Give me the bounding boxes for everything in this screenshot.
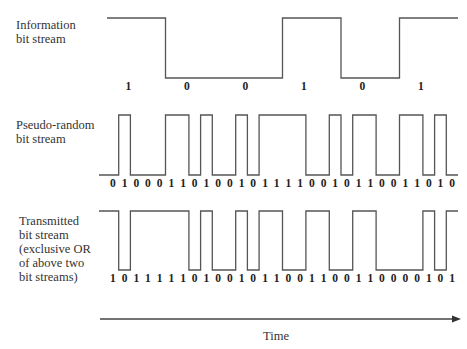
bit-label: 1 (356, 272, 362, 284)
bit-label: 1 (321, 272, 327, 284)
bit-label: 1 (145, 272, 151, 284)
bit-label: 0 (414, 272, 420, 284)
waveform-line (107, 18, 458, 78)
arrowhead-icon (452, 316, 461, 323)
bit-label: 0 (403, 272, 409, 284)
bit-label: 0 (379, 272, 385, 284)
bit-label: 0 (242, 80, 248, 92)
waveform-line (99, 115, 458, 175)
bit-label: 1 (239, 272, 245, 284)
bit-label: 1 (168, 177, 174, 189)
bit-label: 1 (204, 177, 210, 189)
bit-label: 1 (125, 80, 131, 92)
time-axis-arrow (100, 316, 461, 323)
bit-label: 0 (145, 177, 151, 189)
bit-label: 1 (414, 177, 420, 189)
bit-label: 1 (204, 272, 210, 284)
bit-label: 0 (449, 177, 455, 189)
bit-label: 0 (157, 177, 163, 189)
bit-label: 0 (344, 272, 350, 284)
bit-label: 1 (262, 177, 268, 189)
bit-label: 1 (301, 80, 307, 92)
bit-label: 0 (321, 177, 327, 189)
bit-label: 1 (274, 272, 280, 284)
bit-label: 1 (180, 177, 186, 189)
bit-label: 0 (297, 272, 303, 284)
transmitted-waveform: 101111101001011001100110000101 (99, 211, 458, 284)
bit-label: 1 (449, 272, 455, 284)
bit-label: 0 (227, 177, 233, 189)
bit-label: 1 (297, 177, 303, 189)
bit-label: 0 (359, 80, 365, 92)
bit-label: 1 (426, 272, 432, 284)
bit-label: 0 (215, 177, 221, 189)
bit-label: 1 (418, 80, 424, 92)
bit-label: 1 (367, 272, 373, 284)
bit-label: 0 (250, 177, 256, 189)
bit-label: 1 (168, 272, 174, 284)
bit-label: 0 (438, 272, 444, 284)
bit-label: 0 (110, 177, 116, 189)
bit-label: 1 (239, 177, 245, 189)
bit-label: 0 (192, 177, 198, 189)
bit-label: 0 (227, 272, 233, 284)
bit-label: 0 (122, 272, 128, 284)
bit-label: 0 (133, 177, 139, 189)
bit-label: 0 (391, 272, 397, 284)
bit-label: 0 (184, 80, 190, 92)
bit-label: 1 (110, 272, 116, 284)
bit-label: 0 (250, 272, 256, 284)
bit-label: 1 (403, 177, 409, 189)
bit-label: 1 (180, 272, 186, 284)
bit-label: 1 (356, 177, 362, 189)
bit-label: 1 (262, 272, 268, 284)
waveform-diagram: 100101 010001101001011110010110011010 10… (0, 0, 467, 349)
bit-label: 0 (215, 272, 221, 284)
bit-label: 0 (286, 272, 292, 284)
bit-label: 0 (192, 272, 198, 284)
bit-label: 1 (122, 177, 128, 189)
bit-label: 1 (157, 272, 163, 284)
bit-label: 0 (391, 177, 397, 189)
time-axis-label: Time (263, 329, 289, 344)
bit-label: 1 (286, 177, 292, 189)
bit-label: 1 (274, 177, 280, 189)
bit-label: 0 (344, 177, 350, 189)
bit-label: 1 (309, 272, 315, 284)
bit-label: 0 (379, 177, 385, 189)
bit-label: 1 (133, 272, 139, 284)
bit-label: 0 (426, 177, 432, 189)
bit-label: 1 (438, 177, 444, 189)
information-waveform: 100101 (107, 18, 458, 92)
pseudo-random-waveform: 010001101001011110010110011010 (99, 115, 458, 189)
bit-label: 0 (332, 272, 338, 284)
bit-label: 1 (332, 177, 338, 189)
bit-label: 0 (309, 177, 315, 189)
bit-label: 1 (367, 177, 373, 189)
waveform-line (99, 211, 458, 270)
